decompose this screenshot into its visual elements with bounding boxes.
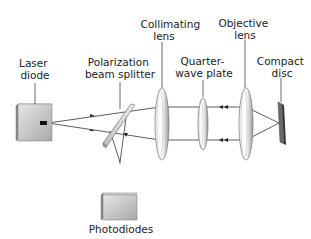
quarter-wave-plate [198,98,208,150]
objective-lens [239,88,253,160]
arrow-left-icon [219,138,223,142]
ray-upper-to-lens [48,107,160,123]
photodiodes [101,193,137,220]
objective-lens-label: Objective lens [218,17,271,41]
collimating-lens [155,88,169,160]
laser-emitter [40,121,47,125]
laser-diode [16,104,52,141]
laser-diode-label: Laser diode [19,57,51,81]
arrow-left-icon [224,138,228,142]
ray-lower-to-lens [48,123,160,140]
beam-splitter-label: Polarization beam splitter [85,56,156,80]
compact-disc-label: Compact disc [257,55,307,79]
arrow-left-icon [224,105,228,109]
collimating-lens-label: Collimating lens [141,18,204,42]
arrow-left-icon [219,105,223,109]
quarter-wave-plate-label: Quarter- wave plate [175,55,233,79]
compact-disc [278,102,286,145]
polarization-beam-splitter [103,104,135,148]
optical-pickup-diagram: Laser diode Polarization beam splitter C… [0,0,311,239]
photodiodes-label: Photodiodes [89,223,154,235]
